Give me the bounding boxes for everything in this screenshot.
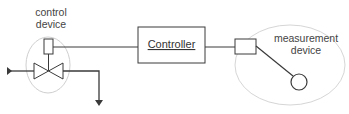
- valve-left-triangle: [34, 63, 49, 79]
- control-device-label-line2: device: [36, 18, 67, 30]
- outlet-arrow-icon: [95, 100, 103, 106]
- transmitter-box: [235, 39, 256, 54]
- inlet-arrow-icon: [7, 67, 12, 75]
- controller-label: Controller: [148, 38, 196, 50]
- measurement-device-label-line1: measurement: [274, 32, 338, 44]
- control-loop-diagram: control device Controller measurement de…: [0, 0, 349, 114]
- valve-right-triangle: [49, 63, 64, 79]
- sensor-circle-icon: [291, 74, 307, 90]
- sensor-probe-line: [256, 46, 293, 76]
- actuator-box: [44, 39, 53, 54]
- measurement-device-label-line2: device: [291, 44, 322, 56]
- control-device-label-line1: control: [35, 6, 67, 18]
